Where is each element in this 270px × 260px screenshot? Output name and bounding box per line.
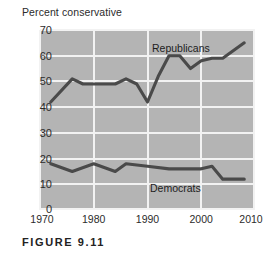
series-layer <box>40 30 255 210</box>
series-line-republicans <box>51 43 245 102</box>
series-label-republicans: Republicans <box>152 42 210 54</box>
x-tick-label-1990: 1990 <box>136 213 159 225</box>
x-tick-label-1970: 1970 <box>30 213 53 225</box>
series-line-democrats <box>51 164 245 179</box>
series-label-democrats: Democrats <box>150 182 201 194</box>
figure-container: Percent conservative 70 60 50 40 30 20 1… <box>0 0 270 260</box>
x-tick-label-1980: 1980 <box>82 213 105 225</box>
figure-caption: FIGURE 9.11 <box>22 236 105 248</box>
x-tick-label-2010: 2010 <box>239 213 262 225</box>
y-axis-title: Percent conservative <box>22 6 122 18</box>
x-tick-label-2000: 2000 <box>190 213 213 225</box>
